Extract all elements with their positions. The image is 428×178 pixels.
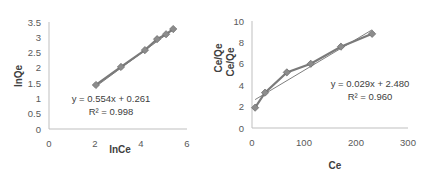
y-axis-title: lnQe: [13, 64, 24, 87]
x-tick-label: 0: [249, 137, 254, 148]
y-axis-title: Ce/Qe: [213, 43, 224, 72]
y-tick-label: 10: [233, 16, 244, 27]
y-tick-label: 2: [36, 62, 41, 73]
x-tick-label: 100: [296, 137, 312, 148]
data-line: [96, 29, 173, 85]
y-tick-label: 8: [239, 37, 244, 48]
langmuir-chart: 0246810 0100200300 y = 0.029x + 2.480 R²…: [213, 16, 416, 172]
y-tick-label: 4: [239, 80, 244, 91]
x-axis-title: lnCe: [109, 144, 131, 155]
y-tick-label: 2: [239, 101, 244, 112]
trendline-equation: y = 0.554x + 0.261: [72, 93, 151, 104]
y-tick-label: 3: [36, 32, 41, 43]
y-axis-title-duplicate: Ce/Qe: [225, 47, 236, 76]
x-axis-title: Ce: [329, 160, 342, 171]
y-tick-label: 0: [239, 123, 244, 134]
y-tick-label: 1: [36, 93, 41, 104]
x-tick-label: 6: [184, 138, 189, 149]
x-tick-label: 0: [46, 138, 51, 149]
x-tick-label: 4: [138, 138, 143, 149]
x-tick-label: 300: [400, 137, 416, 148]
x-tick-label: 2: [92, 138, 97, 149]
y-tick-label: 3.5: [28, 17, 41, 28]
r-squared-label: R² = 0.998: [89, 106, 134, 117]
y-tick-label: 6: [239, 58, 244, 69]
x-tick-label: 200: [348, 137, 364, 148]
y-tick-labels: 00.511.522.533.5: [28, 17, 41, 135]
y-tick-label: 0.5: [28, 108, 41, 119]
y-tick-label: 1.5: [28, 78, 41, 89]
freundlich-chart: 00.511.522.533.5 0246 y = 0.554x + 0.261…: [13, 17, 190, 156]
r-squared-label: R² = 0.960: [348, 91, 393, 102]
y-tick-label: 2.5: [28, 47, 41, 58]
charts-canvas: 00.511.522.533.5 0246 y = 0.554x + 0.261…: [0, 0, 428, 178]
y-tick-label: 0: [36, 124, 41, 135]
x-tick-labels: 0100200300: [249, 137, 416, 148]
trendline-equation: y = 0.029x + 2.480: [331, 78, 410, 89]
